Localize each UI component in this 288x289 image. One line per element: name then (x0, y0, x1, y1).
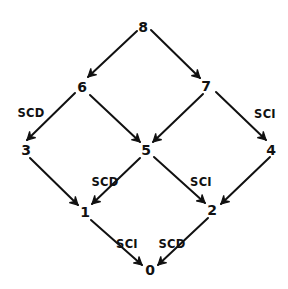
edge-3-to-1 (30, 158, 78, 205)
edge-label-sci: SCI (190, 175, 212, 189)
edge-label-scd: SCD (158, 237, 185, 251)
edge-label-sci: SCI (116, 237, 138, 251)
edge-line (153, 94, 203, 142)
edge-6-to-5 (90, 95, 140, 142)
node-2: 2 (207, 202, 217, 218)
edge-labels: SCDSCISCDSCISCISCD (17, 106, 276, 251)
edge-line (90, 95, 140, 142)
edge-label-scd: SCD (91, 175, 118, 189)
node-6: 6 (77, 79, 87, 95)
nodes: 867354120 (21, 19, 276, 278)
edge-line (151, 30, 200, 78)
edge-label-scd: SCD (17, 106, 44, 120)
node-1: 1 (80, 204, 90, 220)
lattice-diagram: SCDSCISCDSCISCISCD 867354120 (0, 0, 288, 289)
edge-line (30, 158, 78, 205)
edge-line (88, 31, 137, 77)
node-7: 7 (201, 78, 211, 94)
edge-label-sci: SCI (254, 107, 276, 121)
node-5: 5 (141, 142, 151, 158)
edge-7-to-5 (153, 94, 203, 142)
edge-line (221, 157, 270, 204)
node-0: 0 (145, 262, 155, 278)
node-3: 3 (21, 142, 31, 158)
edge-8-to-7 (151, 30, 200, 78)
node-8: 8 (138, 19, 148, 35)
edge-4-to-2 (221, 157, 270, 204)
edge-8-to-6 (88, 31, 137, 77)
node-4: 4 (266, 142, 276, 158)
